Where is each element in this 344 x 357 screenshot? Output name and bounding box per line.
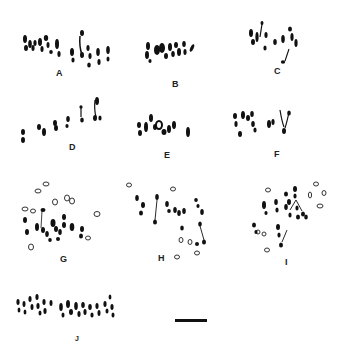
chromosome-spread-g [15,180,110,255]
panel-label-d: D [69,143,76,152]
panel-label-e: E [164,151,170,160]
panel-j [10,285,125,335]
panel-label-g: G [60,255,67,264]
panel-label-h: H [158,254,165,263]
chromosome-spread-j [10,285,125,335]
panel-c [240,15,340,75]
chromosome-spread-b [140,30,240,80]
panel-label-j: J [75,335,79,342]
panel-label-c: C [274,67,281,76]
panel-e [130,105,220,150]
scale-bar [175,319,207,322]
chromosome-spread-d [10,95,110,145]
panel-h [120,180,230,260]
panel-i [230,175,340,255]
panel-d [10,95,110,145]
panel-label-f: F [274,150,280,159]
chromosome-spread-h [120,180,230,260]
panel-label-a: A [56,69,63,78]
chromosome-spread-e [130,105,220,150]
chromosome-spread-f [225,100,344,150]
panel-b [140,30,240,80]
chromosome-spread-i [230,175,340,255]
panel-g [15,180,110,255]
chromosome-spread-c [240,15,340,75]
panel-label-i: I [285,258,288,267]
panel-f [225,100,344,150]
panel-label-b: B [172,80,179,89]
